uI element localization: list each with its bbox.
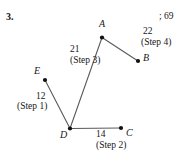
edge-step: (Step 3) [70, 56, 100, 66]
problem-figure: 3. ; 69 ABCDE 12(Step 1)14(Step 2)21(Ste… [0, 0, 185, 161]
edge-e-d [45, 80, 70, 129]
vertex-layer [43, 35, 140, 130]
edge-a-b [102, 38, 138, 62]
graph-canvas [0, 0, 185, 161]
edge-layer [45, 38, 138, 129]
vertex-label-b: B [143, 53, 149, 64]
edge-weight: 21 [70, 45, 80, 55]
edge-weight: 14 [96, 130, 106, 140]
vertex-label-d: D [60, 130, 67, 141]
edge-step: (Step 4) [141, 38, 171, 48]
vertex-label-a: A [99, 19, 105, 30]
vertex-point-b [136, 59, 140, 63]
vertex-point-a [100, 35, 104, 39]
edge-step: (Step 1) [17, 102, 47, 112]
vertex-label-c: C [126, 128, 133, 139]
vertex-label-e: E [34, 66, 40, 77]
vertex-point-d [68, 126, 72, 130]
vertex-point-c [119, 126, 123, 130]
edge-step: (Step 2) [96, 141, 126, 151]
edge-weight: 22 [143, 27, 153, 37]
vertex-point-e [43, 78, 47, 82]
